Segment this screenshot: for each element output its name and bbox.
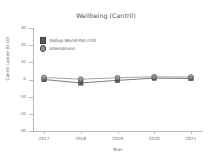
data-point-marker: [42, 75, 47, 80]
legend-square-marker-icon: [40, 37, 46, 43]
legend-item-internations[interactable]: Internations: [40, 45, 118, 52]
data-point-marker: [78, 77, 83, 82]
chart-legend: Gallup World Poll (US) Internations: [40, 37, 118, 53]
data-point-marker: [152, 74, 157, 79]
data-point-marker: [115, 75, 120, 80]
legend-circle-marker-icon: [40, 45, 46, 51]
x-axis-title: Year: [33, 147, 202, 152]
chart-figure: Wellbeing (Cantril) -30-20-100102030 201…: [0, 0, 212, 165]
legend-label-internations: Internations: [49, 46, 75, 51]
data-point-marker: [188, 75, 193, 80]
y-axis-title: Cantril Ladder (0-10): [5, 29, 10, 89]
chart-data-layer: [0, 0, 212, 165]
legend-label-gallup: Gallup World Poll (US): [49, 38, 96, 43]
legend-item-gallup[interactable]: Gallup World Poll (US): [40, 37, 118, 44]
